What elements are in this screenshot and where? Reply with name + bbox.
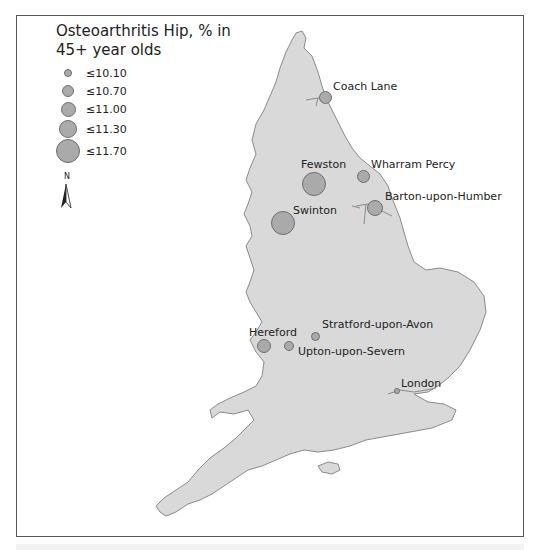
place-label: Barton-upon-Humber [385,190,502,203]
england-landmass [156,31,486,516]
place-marker-icon [367,200,383,216]
legend-circle-icon [59,120,77,138]
place-label: Upton-upon-Severn [298,345,405,358]
place-marker-icon [357,170,370,183]
legend-title-line2: 45+ year olds [56,41,256,60]
legend-label: ≤11.30 [86,123,127,136]
legend-label: ≤11.70 [86,145,127,158]
legend-title: Osteoarthritis Hip, % in 45+ year olds [56,22,256,60]
place-label: Hereford [249,326,297,339]
legend-label: ≤10.70 [86,85,127,98]
place-label: Coach Lane [333,80,397,93]
place-marker-icon [311,332,320,341]
place-marker-icon [302,172,326,196]
legend-label: ≤10.10 [86,67,127,80]
place-label: Fewston [301,158,346,171]
place-marker-icon [394,388,400,394]
place-marker-icon [319,91,332,104]
place-marker-icon [284,341,294,351]
place-label: Stratford-upon-Avon [322,318,433,331]
north-arrow: N [60,172,80,212]
legend-circle-icon [62,85,74,97]
place-marker-icon [271,211,295,235]
legend-title-line1: Osteoarthritis Hip, % in [56,22,256,41]
north-arrow-icon [60,182,80,212]
place-label: London [401,377,441,390]
legend-label: ≤11.00 [86,103,127,116]
bottom-strip [16,544,524,550]
place-label: Wharram Percy [371,158,455,171]
england-map [0,0,539,550]
place-marker-icon [257,339,271,353]
isle-of-wight [318,462,340,474]
north-label: N [64,172,70,181]
legend-circle-icon [56,139,80,163]
legend-circle-icon [61,102,76,117]
place-label: Swinton [293,204,337,217]
legend-circle-icon [64,69,72,77]
